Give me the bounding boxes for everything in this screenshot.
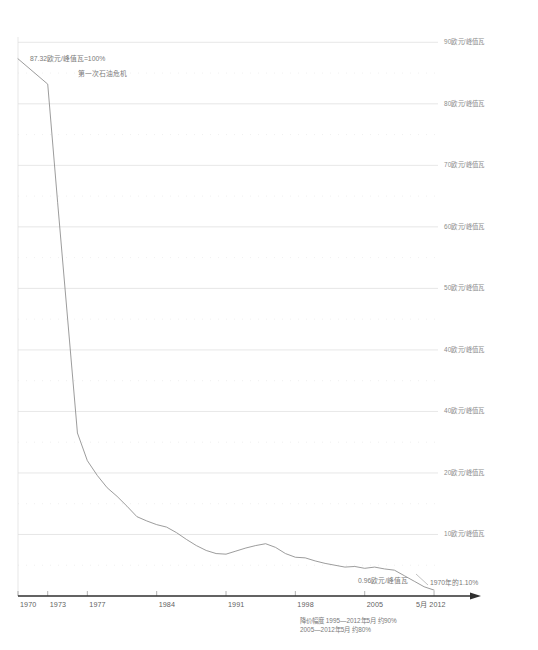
- y-axis-label-8: 10欧元/峰值瓦: [444, 531, 484, 537]
- dotted-gridlines: [18, 73, 438, 565]
- x-axis-ticks: [18, 591, 434, 596]
- y-axis-label-5: 40欧元/峰值瓦: [444, 347, 484, 353]
- x-axis-label-1984: 1984: [159, 601, 175, 608]
- annotation-start-value: 87.32欧元/峰值瓦=100%: [30, 56, 105, 63]
- y-axis-label-3: 60欧元/峰值瓦: [444, 224, 484, 230]
- y-axis-label-7: 20欧元/峰值瓦: [444, 470, 484, 476]
- y-axis-label-0: 90欧元/峰值瓦: [444, 39, 484, 45]
- y-axis-label-4: 50欧元/峰值瓦: [444, 285, 484, 291]
- x-axis-label-1970: 1970: [20, 601, 36, 608]
- x-axis-label-1973: 1973: [50, 601, 66, 608]
- y-axis-label-6: 40欧元/峰值瓦: [444, 408, 484, 414]
- x-axis-label-2012: 5月 2012: [416, 601, 446, 608]
- gridlines: [18, 37, 438, 596]
- chart-footnotes: 降价幅度 1995—2012年5月 约90% 2005—2012年5月 约80%: [300, 616, 397, 635]
- chart-canvas: [0, 0, 538, 650]
- x-axis-label-1998: 1998: [297, 601, 313, 608]
- x-axis-arrowhead: [470, 593, 481, 600]
- footnote-line-1: 降价幅度 1995—2012年5月 约90%: [300, 616, 397, 625]
- price-decline-chart: 90欧元/峰值瓦80欧元/峰值瓦70欧元/峰值瓦60欧元/峰值瓦50欧元/峰值瓦…: [0, 0, 538, 650]
- footnote-line-2: 2005—2012年5月 约80%: [300, 625, 397, 634]
- annotation-end-value: 0.96欧元/峰值瓦: [358, 578, 408, 585]
- y-axis-label-2: 70欧元/峰值瓦: [444, 162, 484, 168]
- x-axis-label-1977: 1977: [89, 601, 105, 608]
- annotation-oil-crisis: 第一次石油危机: [78, 71, 127, 78]
- x-axis-label-2005: 2005: [367, 601, 383, 608]
- y-axis-label-1: 80欧元/峰值瓦: [444, 101, 484, 107]
- price-line: [18, 59, 434, 590]
- annotation-end-percent: 1970年的1.10%: [430, 580, 478, 587]
- x-axis-label-1991: 1991: [228, 601, 244, 608]
